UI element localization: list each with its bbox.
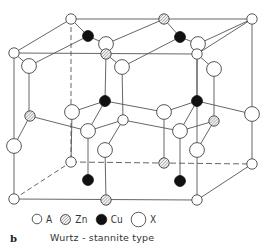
legend-label-a: A (46, 214, 52, 225)
zn-atom (159, 158, 169, 168)
large-open-circle-icon (130, 211, 147, 228)
x-atom (115, 60, 130, 75)
a-atom (192, 49, 202, 59)
filled-black-circle-icon (95, 213, 108, 226)
zn-atom (101, 49, 111, 59)
cu-atom (175, 176, 186, 187)
hatched-circle-icon (59, 213, 72, 226)
legend-label-cu: Cu (111, 214, 123, 225)
a-atom (9, 48, 19, 58)
a-atom (192, 195, 202, 205)
a-atom (247, 159, 257, 169)
a-atom (66, 157, 76, 167)
bond-lines (14, 19, 252, 200)
legend-label-x: X (150, 214, 156, 225)
x-atom (190, 143, 205, 158)
unit-cell-frame (14, 19, 252, 200)
x-atom (65, 105, 80, 120)
a-atom (247, 14, 257, 24)
legend-item-cu: Cu (95, 213, 123, 226)
a-atom (118, 115, 128, 125)
legend-item-a: A (31, 213, 52, 225)
x-atom (7, 139, 22, 154)
panel-letter: b (10, 233, 17, 244)
zn-atom (101, 195, 111, 205)
a-atom (9, 194, 19, 204)
zn-atom (159, 14, 169, 24)
legend: A Zn Cu X (31, 212, 163, 226)
figure-caption: Wurtz - stannite type (50, 232, 154, 243)
x-atom (245, 107, 260, 122)
atoms (7, 14, 260, 205)
cu-atom (100, 96, 111, 107)
x-atom (173, 124, 188, 139)
small-open-circle-icon (31, 213, 43, 225)
x-atom (22, 59, 37, 74)
x-atom (207, 62, 222, 77)
cu-atom (83, 31, 94, 42)
zn-atom (25, 111, 35, 121)
x-atom (157, 105, 172, 120)
cu-atom (83, 175, 94, 186)
cu-atom (175, 32, 186, 43)
cu-atom (192, 96, 203, 107)
a-atom (66, 14, 76, 24)
legend-item-zn: Zn (59, 213, 87, 226)
x-atom (81, 124, 96, 139)
legend-label-zn: Zn (75, 214, 87, 225)
legend-item-x: X (130, 211, 156, 228)
x-atom (98, 143, 113, 158)
zn-atom (209, 116, 219, 126)
